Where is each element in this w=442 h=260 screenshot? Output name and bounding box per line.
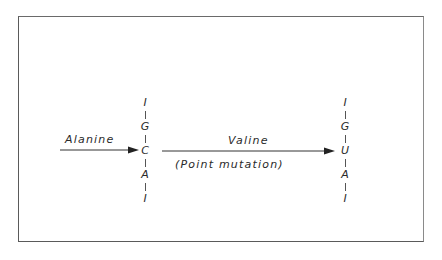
- codon-base: A: [341, 169, 349, 181]
- codon-base: C: [141, 145, 149, 157]
- alanine-label: Alanine: [65, 133, 115, 146]
- bond-line: [145, 111, 146, 119]
- codon-base: A: [141, 169, 149, 181]
- bond-line: [145, 135, 146, 143]
- bond-line: [345, 111, 346, 119]
- arrows-layer: [0, 0, 442, 260]
- bond-line: [145, 183, 146, 191]
- bond-line: [345, 183, 346, 191]
- alanine-codon: I G C A I: [137, 97, 153, 205]
- codon-base: G: [141, 121, 150, 133]
- codon-base: I: [143, 97, 146, 109]
- valine-arrow: [162, 148, 335, 155]
- codon-base: I: [343, 97, 346, 109]
- codon-base: I: [143, 193, 146, 205]
- bond-line: [345, 159, 346, 167]
- codon-base: G: [341, 121, 350, 133]
- point-mutation-label: (Point mutation): [175, 158, 284, 171]
- bond-line: [345, 135, 346, 143]
- valine-label: Valine: [228, 134, 269, 147]
- codon-base: I: [343, 193, 346, 205]
- alanine-arrow: [60, 147, 139, 154]
- bond-line: [145, 159, 146, 167]
- codon-base: U: [341, 145, 349, 157]
- valine-codon: I G U A I: [337, 97, 353, 205]
